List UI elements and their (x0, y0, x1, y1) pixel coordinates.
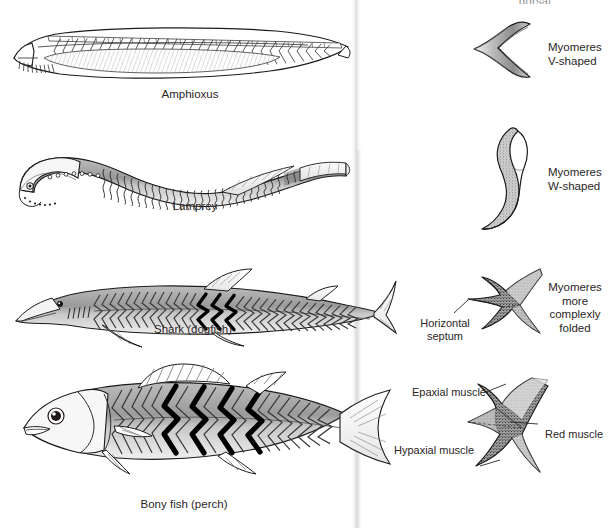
amphioxus-myomere-shape (466, 20, 538, 82)
caption-amphioxus: Amphioxus (130, 88, 250, 100)
label-myomeres-v-line1: Myomeres (548, 41, 602, 55)
caption-shark: Shark (dogfish) (118, 323, 268, 335)
label-complexly-folded-line1: Myomeres (542, 281, 608, 295)
label-complexly-folded-line4: folded (542, 322, 608, 336)
label-myomeres-w-shaped: Myomeres W-shaped (548, 166, 602, 193)
caption-bony-fish: Bony fish (perch) (104, 498, 264, 510)
amphioxus-lateral-drawing (8, 14, 353, 86)
callout-hypaxial-muscle: Hypaxial muscle (394, 444, 474, 457)
label-myomeres-w-line1: Myomeres (548, 166, 602, 180)
caption-lamprey: Lamprey (140, 200, 250, 212)
label-myomeres-complexly-folded: Myomeres more complexly folded (542, 281, 608, 335)
callout-horizontal-septum: Horizontal septum (408, 317, 482, 343)
row-shark: Shark (dogfish) Horizontal septum Myomer… (0, 255, 610, 355)
callout-horizontal-septum-line1: Horizontal (408, 317, 482, 330)
figure-sheet: dorsal (0, 0, 610, 528)
shark-lateral-drawing (6, 263, 396, 353)
row-bony-fish: Bony fish (perch) Epaxial muscle (0, 352, 610, 528)
label-myomeres-v-line2: V-shaped (548, 55, 602, 69)
callout-red-muscle: Red muscle (545, 428, 603, 441)
label-myomeres-w-line2: W-shaped (548, 180, 602, 194)
row-amphioxus: Amphioxus Myomeres V-shaped (0, 0, 610, 115)
label-complexly-folded-line2: more (542, 295, 608, 309)
row-lamprey: Lamprey Myomeres W-shaped (0, 118, 610, 233)
callout-horizontal-septum-line2: septum (408, 330, 482, 343)
label-complexly-folded-line3: complexly (542, 308, 608, 322)
callout-epaxial-muscle: Epaxial muscle (412, 386, 486, 399)
label-myomeres-v-shaped: Myomeres V-shaped (548, 41, 602, 68)
perch-lateral-drawing (6, 364, 396, 494)
lamprey-myomere-shape (470, 126, 540, 232)
